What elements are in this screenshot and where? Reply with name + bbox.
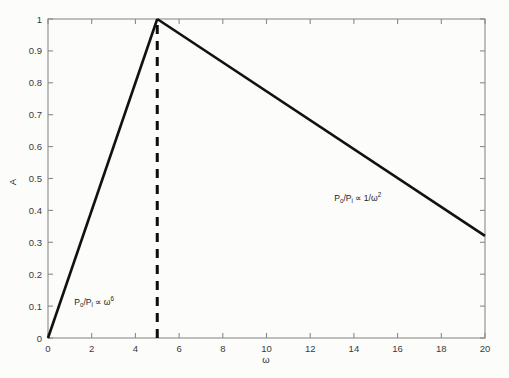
x-tick-label: 18 bbox=[436, 343, 447, 354]
figure-canvas: 02468101214161820 00.10.20.30.40.50.60.7… bbox=[0, 0, 509, 378]
x-axis-label: ω bbox=[262, 354, 270, 365]
x-tick-label: 16 bbox=[392, 343, 403, 354]
y-axis-tick-labels: 00.10.20.30.40.50.60.70.80.91 bbox=[29, 14, 42, 344]
series-rising-branch bbox=[48, 19, 157, 338]
x-tick-label: 12 bbox=[305, 343, 316, 354]
y-tick-label: 0.1 bbox=[29, 301, 42, 312]
rising-branch-annotation: Po/Pi ∝ ω6 bbox=[74, 295, 114, 308]
chart-annotations: Po/Pi ∝ ω6Po/Pi ∝ 1/ω2 bbox=[74, 191, 381, 308]
y-axis-label: A bbox=[7, 178, 18, 185]
x-tick-label: 6 bbox=[176, 343, 181, 354]
x-axis-ticks bbox=[48, 19, 485, 338]
y-tick-label: 0.8 bbox=[29, 77, 42, 88]
y-tick-label: 0.4 bbox=[29, 205, 42, 216]
chart-plot: 02468101214161820 00.10.20.30.40.50.60.7… bbox=[0, 0, 509, 378]
y-tick-label: 0 bbox=[37, 333, 42, 344]
data-series-group bbox=[48, 19, 485, 338]
x-tick-label: 8 bbox=[220, 343, 225, 354]
y-tick-label: 0.6 bbox=[29, 141, 42, 152]
x-tick-label: 20 bbox=[480, 343, 491, 354]
y-tick-label: 0.2 bbox=[29, 269, 42, 280]
axis-frame bbox=[48, 19, 485, 338]
x-tick-label: 0 bbox=[45, 343, 50, 354]
y-tick-label: 0.5 bbox=[29, 173, 42, 184]
x-tick-label: 14 bbox=[349, 343, 360, 354]
x-tick-label: 10 bbox=[261, 343, 272, 354]
x-tick-label: 4 bbox=[133, 343, 138, 354]
falling-branch-annotation: Po/Pi ∝ 1/ω2 bbox=[334, 191, 381, 204]
x-axis-tick-labels: 02468101214161820 bbox=[45, 343, 490, 354]
y-tick-label: 0.7 bbox=[29, 109, 42, 120]
series-falling-branch bbox=[157, 19, 485, 236]
x-tick-label: 2 bbox=[89, 343, 94, 354]
y-axis-ticks bbox=[48, 19, 485, 338]
y-tick-label: 1 bbox=[37, 14, 42, 25]
y-tick-label: 0.3 bbox=[29, 237, 42, 248]
y-tick-label: 0.9 bbox=[29, 45, 42, 56]
